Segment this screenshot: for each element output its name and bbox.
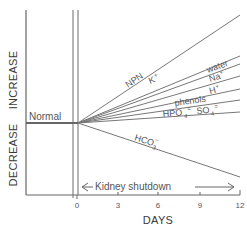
tick-0: 0 xyxy=(75,201,80,210)
svg-text:+: + xyxy=(153,72,159,79)
decrease-label: DECREASE xyxy=(7,124,19,187)
svg-text:+: + xyxy=(215,83,220,90)
hpo4-so4-label-group: HPO 4 = SO 4 = xyxy=(162,103,219,121)
tick-3: 3 xyxy=(116,201,121,210)
svg-text:−: − xyxy=(154,137,160,144)
tick-12: 12 xyxy=(236,201,245,210)
increase-label: INCREASE xyxy=(7,51,19,110)
npn-label: NPN xyxy=(124,71,145,90)
svg-text:=: = xyxy=(214,103,219,109)
tick-6: 6 xyxy=(156,201,161,210)
so4-label: SO xyxy=(196,105,210,116)
k-label-group: K + xyxy=(147,72,161,86)
series-lines xyxy=(78,15,240,177)
svg-text:3: 3 xyxy=(152,144,158,151)
days-label: DAYS xyxy=(143,214,173,226)
hco3-label-group: HCO 3 − xyxy=(133,130,160,151)
line-hco3 xyxy=(78,123,240,177)
chart: INCREASE DECREASE Normal DAYS 0 3 6 9 12… xyxy=(0,0,247,233)
normal-label: Normal xyxy=(29,111,61,122)
kidney-shutdown-label: Kidney shutdown xyxy=(95,181,171,192)
svg-text:=: = xyxy=(187,106,192,112)
tick-9: 9 xyxy=(198,201,203,210)
hpo4-label: HPO xyxy=(162,107,182,119)
